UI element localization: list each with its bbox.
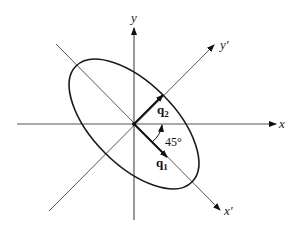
origin-point [132,122,136,126]
y-axis-label: y [129,10,137,25]
x-prime-label: x′ [223,203,233,218]
angle-label: 45° [165,135,182,149]
y-prime-label: y′ [218,37,229,52]
q2-label: q2 [157,102,169,119]
q1-vector [134,124,167,157]
ellipse-diagram: y x y′ x′ q2 q1 45° [0,0,297,228]
angle-arc [152,125,162,142]
x-axis-label: x [278,116,285,131]
